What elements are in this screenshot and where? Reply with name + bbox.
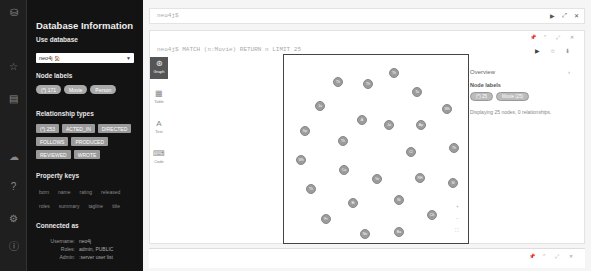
- graph-canvas[interactable]: + − ⛶ ThThThToJuWhAJoApSpThClThWhCaYoRHS…: [283, 54, 469, 244]
- run-icon[interactable]: ▶: [550, 12, 555, 19]
- relationship-type-tag[interactable]: REVIEWED: [36, 150, 71, 159]
- relationship-type-tag[interactable]: ACTED_IN: [62, 124, 95, 133]
- graph-node[interactable]: Fr: [321, 214, 331, 224]
- graph-node[interactable]: Ni: [394, 195, 404, 205]
- zoom-out-icon[interactable]: −: [456, 215, 459, 221]
- tab-code[interactable]: ⌨ Code: [150, 147, 168, 169]
- overview-node-labels-title: Node labels: [470, 82, 585, 88]
- frame-query[interactable]: neo4j$ MATCH (n:Movie) RETURN n LIMIT 25: [157, 46, 301, 53]
- overview-label-pill[interactable]: (*) 25: [470, 92, 493, 101]
- node-label-pill[interactable]: (*) 171: [36, 85, 61, 94]
- graph-node[interactable]: To: [412, 87, 422, 97]
- graph-node[interactable]: A: [357, 115, 367, 125]
- graph-node[interactable]: Bi: [348, 198, 358, 208]
- graph-node[interactable]: Th: [333, 77, 343, 87]
- code-icon: ⌨: [150, 149, 168, 159]
- graph-node[interactable]: Wh: [296, 155, 306, 165]
- main-area: neo4j$ ▶ ⤢ ✕ 📌 ⌃ ⤢ ✕ neo4j$ MATCH (n:Mov…: [143, 0, 591, 271]
- next-frame-bar: 📌 ⌃ ⤢ ✕: [149, 248, 585, 268]
- relationship-type-tag[interactable]: DIRECTED: [98, 124, 132, 133]
- graph-node[interactable]: Cl: [406, 147, 416, 157]
- property-key[interactable]: released: [98, 188, 123, 196]
- query-editor-bar[interactable]: neo4j$ ▶ ⤢ ✕: [149, 8, 585, 24]
- chevron-down-icon: ▼: [126, 53, 131, 63]
- roles-key: Roles:: [47, 246, 75, 252]
- graph-node[interactable]: Th: [306, 184, 316, 194]
- graph-node[interactable]: Ch: [427, 210, 437, 220]
- close-frame-icon[interactable]: ✕: [569, 253, 573, 259]
- graph-node[interactable]: Sl: [448, 178, 458, 188]
- zoom-in-icon[interactable]: +: [456, 203, 459, 209]
- database-icon[interactable]: ⛁: [7, 6, 20, 19]
- graph-node[interactable]: Jo: [384, 120, 394, 130]
- node-labels-label: Node labels: [36, 72, 72, 79]
- property-key[interactable]: roles: [36, 202, 53, 210]
- favorites-icon[interactable]: ☆: [7, 60, 20, 73]
- database-value: neo4j: [39, 55, 52, 61]
- fit-icon[interactable]: ⛶: [455, 227, 459, 234]
- graph-node[interactable]: Sp: [300, 126, 310, 136]
- tab-table[interactable]: ▦ Table: [150, 87, 168, 109]
- node-labels-list: (*) 171 Movie Person: [36, 85, 136, 94]
- relationship-type-tag[interactable]: PRODUCED: [71, 137, 108, 146]
- chevron-right-icon[interactable]: ›: [568, 69, 570, 75]
- property-key[interactable]: rating: [77, 188, 96, 196]
- favorite-icon[interactable]: ☆: [550, 47, 555, 54]
- graph-node[interactable]: Wh: [442, 104, 452, 114]
- graph-node[interactable]: Th: [338, 136, 348, 146]
- tab-label: Graph: [153, 69, 164, 74]
- table-icon: ▦: [150, 89, 168, 99]
- relationship-type-tag[interactable]: (*) 253: [36, 124, 59, 133]
- editor-prompt[interactable]: neo4j$: [157, 12, 179, 19]
- graph-node[interactable]: Ca: [339, 165, 349, 175]
- drawer-title: Database Information: [36, 20, 133, 31]
- help-icon[interactable]: ?: [7, 180, 20, 193]
- graph-node[interactable]: Ap: [416, 120, 426, 130]
- graph-node[interactable]: Ba: [394, 227, 404, 237]
- about-icon[interactable]: ⓘ: [7, 240, 20, 253]
- graph-node[interactable]: RH: [415, 173, 425, 183]
- roles-value: admin, PUBLIC: [79, 246, 113, 252]
- result-frame: 📌 ⌃ ⤢ ✕ neo4j$ MATCH (n:Movie) RETURN n …: [149, 30, 585, 244]
- property-key[interactable]: title: [109, 202, 123, 210]
- graph-node[interactable]: Ju: [315, 101, 325, 111]
- property-key[interactable]: summary: [56, 202, 83, 210]
- relationship-types-label: Relationship types: [36, 110, 94, 117]
- property-key[interactable]: name: [55, 188, 74, 196]
- overview-label-pill[interactable]: Movie (25): [496, 92, 529, 101]
- settings-icon[interactable]: ⚙: [7, 212, 20, 225]
- documents-icon[interactable]: ▤: [7, 92, 20, 105]
- fullscreen-icon[interactable]: ⤢: [555, 253, 559, 260]
- rerun-icon[interactable]: ▶: [535, 47, 540, 54]
- icon-rail: ⛁ ☆ ▤ ☁ ? ⚙ ⓘ: [0, 0, 27, 271]
- tab-label: Table: [154, 99, 164, 104]
- pin-icon[interactable]: 📌: [530, 34, 536, 40]
- relationship-types-list: (*) 253 ACTED_IN DIRECTED FOLLOWS PRODUC…: [36, 124, 136, 159]
- node-label-pill[interactable]: Person: [90, 85, 116, 94]
- tab-graph[interactable]: ⊛ Graph: [150, 57, 168, 79]
- fullscreen-icon[interactable]: ⤢: [556, 34, 560, 41]
- collapse-icon[interactable]: ⌃: [543, 34, 547, 40]
- pin-icon[interactable]: 📌: [529, 253, 535, 259]
- cloud-icon[interactable]: ☁: [7, 150, 20, 163]
- download-icon[interactable]: ⬇: [565, 47, 570, 54]
- graph-node[interactable]: Th: [363, 79, 373, 89]
- admin-key: Admin:: [47, 254, 75, 260]
- collapse-icon[interactable]: ⌃: [542, 253, 546, 259]
- close-frame-icon[interactable]: ✕: [570, 34, 574, 40]
- graph-node[interactable]: Th: [389, 68, 399, 78]
- node-label-pill[interactable]: Movie: [64, 85, 87, 94]
- expand-icon[interactable]: ⤢: [562, 12, 567, 19]
- relationship-type-tag[interactable]: FOLLOWS: [36, 137, 68, 146]
- tab-text[interactable]: A Text: [150, 117, 168, 139]
- property-key[interactable]: born: [36, 188, 52, 196]
- graph-node[interactable]: Th: [449, 143, 459, 153]
- relationship-type-tag[interactable]: WROTE: [74, 150, 101, 159]
- database-select[interactable]: neo4j 🏠 ▼: [36, 53, 134, 63]
- graph-node[interactable]: Ne: [360, 229, 370, 239]
- admin-value[interactable]: :server user list: [79, 254, 113, 260]
- property-key[interactable]: tagline: [85, 202, 106, 210]
- clear-icon[interactable]: ✕: [574, 12, 579, 19]
- graph-node[interactable]: Yo: [372, 174, 382, 184]
- connection-row: Username: neo4j: [47, 238, 91, 244]
